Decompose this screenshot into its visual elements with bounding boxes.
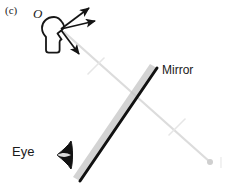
eye-symbol (57, 141, 73, 169)
mirror-surface (80, 68, 157, 181)
virtual-image-point (207, 159, 213, 165)
line-of-sight-to-image (64, 32, 221, 168)
mirror-label: Mirror (162, 64, 193, 76)
object-label: O (33, 7, 42, 20)
head-outline (42, 17, 64, 53)
eye-label: Eye (12, 145, 34, 158)
head-silhouette (42, 17, 64, 53)
optics-figure-panel-c: (c) O Mirror Eye (0, 0, 228, 188)
panel-label: (c) (5, 5, 17, 16)
emitted-rays (61, 8, 95, 54)
figure-canvas (0, 0, 228, 188)
mirror (73, 64, 157, 181)
mirror-backing (73, 64, 157, 181)
